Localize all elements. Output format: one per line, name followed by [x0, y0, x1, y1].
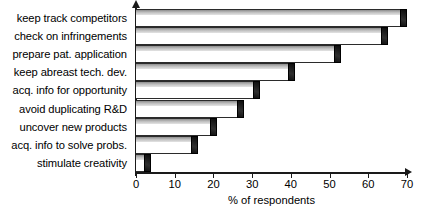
- bar-end-cap: [288, 63, 295, 81]
- bar[interactable]: [136, 100, 244, 118]
- y-axis-arrow-icon: [132, 0, 140, 8]
- bar-row: [136, 81, 407, 99]
- x-axis-tick-label: 10: [160, 178, 190, 190]
- category-label: avoid duplicating R&D: [19, 100, 127, 118]
- bar-row: [136, 9, 407, 27]
- bar-end-cap: [381, 27, 388, 45]
- bar-front-face: [136, 69, 295, 81]
- x-axis-tick-label: 70: [392, 178, 422, 190]
- bar[interactable]: [136, 9, 407, 27]
- bar-front-face: [136, 15, 407, 27]
- bar-row: [136, 45, 407, 63]
- bar-front-face: [136, 106, 244, 118]
- x-axis-tick-label: 0: [121, 178, 151, 190]
- bar-row: [136, 136, 407, 154]
- category-label: stimulate creativity: [37, 154, 127, 172]
- bar-end-cap: [237, 100, 244, 118]
- bar-end-cap: [191, 136, 198, 154]
- bar-end-cap: [400, 9, 407, 27]
- bar[interactable]: [136, 118, 217, 136]
- bar[interactable]: [136, 63, 295, 81]
- bar-front-face: [136, 33, 388, 45]
- bar-front-face: [136, 124, 217, 136]
- bar[interactable]: [136, 154, 151, 172]
- x-axis-tick-label: 60: [353, 178, 383, 190]
- bar-front-face: [136, 87, 260, 99]
- category-label: acq. info for opportunity: [13, 81, 127, 99]
- bar-chart: keep track competitorscheck on infringem…: [0, 0, 429, 215]
- bar-row: [136, 118, 407, 136]
- x-axis-line: [136, 172, 407, 174]
- bar-row: [136, 27, 407, 45]
- bar-end-cap: [253, 81, 260, 99]
- bar-front-face: [136, 51, 341, 63]
- bar-front-face: [136, 142, 198, 154]
- bar[interactable]: [136, 81, 260, 99]
- category-axis-labels: keep track competitorscheck on infringem…: [0, 9, 131, 172]
- x-axis-title: % of respondents: [136, 194, 407, 206]
- category-label: prepare pat. application: [12, 45, 127, 63]
- bar-end-cap: [334, 45, 341, 63]
- category-label: check on infringements: [14, 27, 127, 45]
- plot-area: [136, 9, 407, 172]
- bar-row: [136, 100, 407, 118]
- x-axis-tick-label: 50: [315, 178, 345, 190]
- bar-row: [136, 63, 407, 81]
- bar[interactable]: [136, 45, 341, 63]
- category-label: keep track competitors: [17, 9, 127, 27]
- bar[interactable]: [136, 136, 198, 154]
- x-axis-tick-label: 20: [198, 178, 228, 190]
- category-label: acq. info to solve probs.: [11, 136, 127, 154]
- category-label: keep abreast tech. dev.: [14, 63, 127, 81]
- x-axis-tick-label: 40: [276, 178, 306, 190]
- bar[interactable]: [136, 27, 388, 45]
- bar-end-cap: [144, 154, 151, 172]
- x-axis-tick-label: 30: [237, 178, 267, 190]
- category-label: uncover new products: [20, 118, 127, 136]
- bar-row: [136, 154, 407, 172]
- bar-end-cap: [210, 118, 217, 136]
